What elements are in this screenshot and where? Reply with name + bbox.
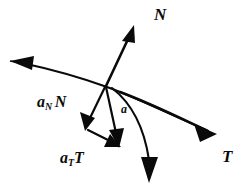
label-tangent-unit-vector: T (222, 148, 232, 165)
tangent-arrowhead (194, 124, 217, 142)
label-normal-component-vector: N (55, 93, 67, 110)
normal-component-vector-arrow (80, 87, 105, 131)
label-normal-component: aNN (37, 94, 66, 112)
normal-vector-arrow (106, 25, 135, 86)
label-normal-component-subscript: N (45, 101, 52, 112)
label-tangential-component-vector: T (74, 149, 84, 166)
descending-branch-arrowhead (141, 157, 158, 183)
vector-diagram-figure: N T a aNN aTT (0, 0, 246, 191)
label-normal-unit-vector: N (154, 6, 166, 23)
label-acceleration-vector: a (121, 103, 127, 115)
label-tangential-component: aTT (60, 150, 84, 168)
